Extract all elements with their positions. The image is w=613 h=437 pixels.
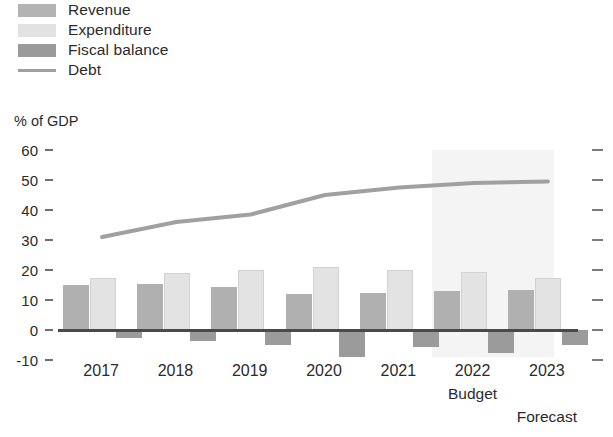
legend-label-debt: Debt	[68, 62, 101, 78]
y-tick-mark	[45, 179, 53, 181]
x-tick-label-2020: 2020	[306, 362, 342, 380]
y-tick-mark	[45, 209, 53, 211]
y-tick-mark	[45, 269, 53, 271]
x-tick-label-2022: 2022	[455, 362, 491, 380]
y-tick-label-neg10: -10	[16, 352, 38, 369]
y-tick-mark-right	[592, 179, 603, 181]
legend-label-fiscal-balance: Fiscal balance	[68, 42, 168, 58]
x-sublabel-budget: Budget	[448, 385, 497, 403]
x-tick-label-2018: 2018	[158, 362, 194, 380]
y-tick-mark	[45, 299, 53, 301]
y-tick-mark	[45, 359, 53, 361]
y-tick-mark	[45, 239, 53, 241]
revenue-swatch-icon	[18, 4, 56, 17]
debt-line-series	[58, 150, 578, 360]
y-tick-mark-right	[592, 269, 603, 271]
x-tick-label-2021: 2021	[380, 362, 416, 380]
legend-item-debt: Debt	[18, 60, 168, 80]
y-tick-label-40: 40	[21, 202, 38, 219]
debt-line-swatch-icon	[18, 64, 56, 77]
legend-label-expenditure: Expenditure	[68, 22, 152, 38]
y-tick-mark-right	[592, 299, 603, 301]
legend-label-revenue: Revenue	[68, 2, 131, 18]
y-tick-mark-right	[592, 359, 603, 361]
y-axis-tick-labels: 6050403020100-10	[0, 150, 52, 360]
fiscal-balance-swatch-icon	[18, 44, 56, 57]
y-tick-label-10: 10	[21, 292, 38, 309]
legend-item-expenditure: Expenditure	[18, 20, 168, 40]
y-tick-label-50: 50	[21, 172, 38, 189]
plot-area	[58, 150, 578, 360]
x-axis-tick-labels: 201720182019202020212022Budget2023Foreca…	[58, 362, 578, 432]
chart-legend: Revenue Expenditure Fiscal balance Debt	[18, 0, 168, 80]
y-tick-mark-right	[592, 329, 603, 331]
y-axis-title: % of GDP	[14, 113, 78, 129]
y-tick-mark-right	[592, 149, 603, 151]
y-tick-mark-right	[592, 239, 603, 241]
x-sublabel-forecast: Forecast	[517, 408, 577, 426]
legend-item-revenue: Revenue	[18, 0, 168, 20]
chart-figure: Revenue Expenditure Fiscal balance Debt …	[0, 0, 613, 437]
y-tick-mark-right	[592, 209, 603, 211]
y-tick-label-60: 60	[21, 142, 38, 159]
y-tick-mark	[45, 329, 53, 331]
x-tick-label-2023: 2023	[529, 362, 565, 380]
x-tick-label-2019: 2019	[232, 362, 268, 380]
y-tick-label-20: 20	[21, 262, 38, 279]
x-tick-label-2017: 2017	[83, 362, 119, 380]
expenditure-swatch-icon	[18, 24, 56, 37]
legend-item-fiscal-balance: Fiscal balance	[18, 40, 168, 60]
debt-line-path	[102, 182, 548, 238]
y-tick-mark	[45, 149, 53, 151]
y-tick-label-30: 30	[21, 232, 38, 249]
y-tick-label-0: 0	[30, 322, 38, 339]
